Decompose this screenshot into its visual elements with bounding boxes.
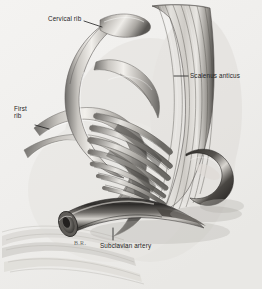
label-first-rib: Firstrib — [14, 105, 40, 120]
label-first-rib-line-2: rib — [14, 112, 21, 119]
artist-signature: B.R. — [74, 240, 86, 246]
label-scalenus-anticus: Scalenus anticus — [190, 72, 240, 79]
label-first-rib-line-1: First — [14, 105, 27, 112]
label-cervical-rib: Cervical rib — [48, 15, 81, 22]
anatomical-illustration: Cervical rib Scalenus anticus Firstrib S… — [0, 0, 262, 289]
label-subclavian-artery: Subclavian artery — [100, 242, 151, 249]
